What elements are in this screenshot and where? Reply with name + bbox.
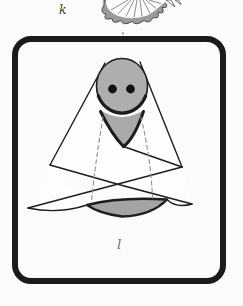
doll-head (97, 59, 148, 114)
doll-eye-right (126, 85, 135, 94)
plate-illustration: k (0, 0, 243, 306)
print-speck (122, 33, 124, 35)
skirt-spike-icon (166, 0, 181, 7)
figure-label-k: k (59, 2, 67, 17)
doll-eye-left (108, 85, 117, 94)
doll-base (87, 199, 167, 217)
ruffled-skirt-partial (102, 0, 181, 24)
figure-label-l: l (117, 236, 121, 252)
book-page: k (0, 0, 243, 306)
wrapped-doll-figure (28, 57, 192, 216)
